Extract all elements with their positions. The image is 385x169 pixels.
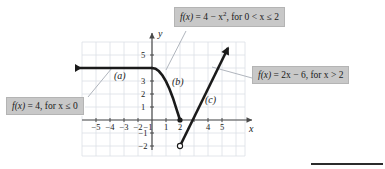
y-tick-label-1: 1 <box>138 102 148 112</box>
y-tick-label--1: −1 <box>136 128 150 138</box>
callout-constant: f(x) = 4, for x ≤ 0 <box>6 97 84 115</box>
callout-quadratic-condition: , for 0 < x ≤ 2 <box>226 12 279 22</box>
y-tick-label-2: 2 <box>138 89 148 99</box>
x-tick-label-5: 5 <box>217 122 227 132</box>
y-tick-label--2: −2 <box>136 141 150 151</box>
branch-label-b: (b) <box>172 76 184 87</box>
callout-linear-eq: = 2x − 6 <box>271 70 305 80</box>
callout-linear: f(x) = 2x − 6, for x > 2 <box>252 66 349 84</box>
bottom-rule-divider <box>311 163 383 165</box>
x-tick-label-2: 2 <box>175 122 185 132</box>
callout-constant-eq: = 4 <box>25 101 40 111</box>
open-endpoint-2-neg2 <box>177 143 182 148</box>
callout-quadratic-eq: = 4 − x <box>193 12 223 22</box>
callout-constant-condition: , for x ≤ 0 <box>40 101 78 111</box>
callout-quadratic-lhs: f(x) <box>180 12 193 22</box>
x-tick-label--5: −5 <box>89 122 103 132</box>
callout-constant-lhs: f(x) <box>12 101 25 111</box>
x-axis-label: x <box>249 123 253 134</box>
branch-label-c: (c) <box>205 94 216 105</box>
y-tick-label-3: 3 <box>138 76 148 86</box>
y-tick-label-5: 5 <box>138 50 148 60</box>
x-tick-label-4: 4 <box>203 122 213 132</box>
branch-label-a: (a) <box>114 70 126 81</box>
x-tick-label-1: 1 <box>161 122 171 132</box>
x-tick-label--4: −4 <box>103 122 117 132</box>
callout-linear-lhs: f(x) <box>258 70 271 80</box>
y-axis-label: y <box>158 28 162 39</box>
callout-quadratic: f(x) = 4 − x2, for 0 < x ≤ 2 <box>174 7 285 27</box>
x-tick-label--3: −3 <box>117 122 131 132</box>
callout-linear-condition: , for x > 2 <box>306 70 344 80</box>
